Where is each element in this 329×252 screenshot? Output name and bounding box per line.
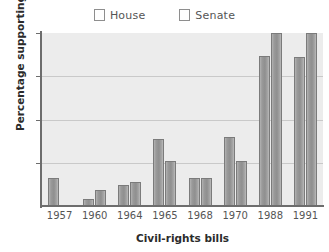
x-tick-label: 1964 xyxy=(117,210,142,221)
bar-house xyxy=(189,178,200,206)
bar-senate xyxy=(95,190,106,206)
bar-house xyxy=(224,137,235,206)
bar-senate xyxy=(165,161,176,206)
x-tick-label: 1965 xyxy=(152,210,177,221)
bar-group xyxy=(112,33,147,206)
bar-house xyxy=(259,56,270,207)
legend-label-house: House xyxy=(110,9,145,22)
bar-group xyxy=(218,33,253,206)
y-axis-title: Percentage supporting bill xyxy=(14,0,26,132)
y-tick-mark xyxy=(36,76,41,77)
legend-swatch-senate xyxy=(179,9,190,21)
x-tick-label: 1988 xyxy=(258,210,283,221)
x-tick-label: 1957 xyxy=(47,210,72,221)
legend-item-house: House xyxy=(94,9,145,22)
legend-swatch-house xyxy=(94,9,105,21)
bar-group xyxy=(253,33,288,206)
y-tick-mark xyxy=(36,33,41,34)
bar-senate xyxy=(306,33,317,206)
bar-house xyxy=(153,139,164,206)
chart-legend: House Senate xyxy=(0,4,329,26)
x-tick-label: 1960 xyxy=(82,210,107,221)
legend-item-senate: Senate xyxy=(179,9,235,22)
y-tick-mark xyxy=(36,163,41,164)
x-tick-label: 1970 xyxy=(222,210,247,221)
x-axis-line xyxy=(40,205,324,207)
bar-senate xyxy=(271,33,282,206)
bar-group xyxy=(77,33,112,206)
bar-senate xyxy=(236,161,247,206)
x-axis-title: Civil-rights bills xyxy=(42,232,323,244)
bar-house xyxy=(118,185,129,206)
x-tick-label: 1991 xyxy=(293,210,318,221)
x-tick-label: 1968 xyxy=(187,210,212,221)
plot-area xyxy=(42,33,323,206)
bar-senate xyxy=(130,182,141,206)
bar-house xyxy=(294,57,305,206)
legend-label-senate: Senate xyxy=(195,9,235,22)
bar-house xyxy=(48,178,59,206)
bar-group xyxy=(42,33,77,206)
y-tick-mark xyxy=(36,120,41,121)
bar-group xyxy=(288,33,323,206)
bar-senate xyxy=(201,178,212,206)
bar-group xyxy=(183,33,218,206)
bar-group xyxy=(147,33,182,206)
